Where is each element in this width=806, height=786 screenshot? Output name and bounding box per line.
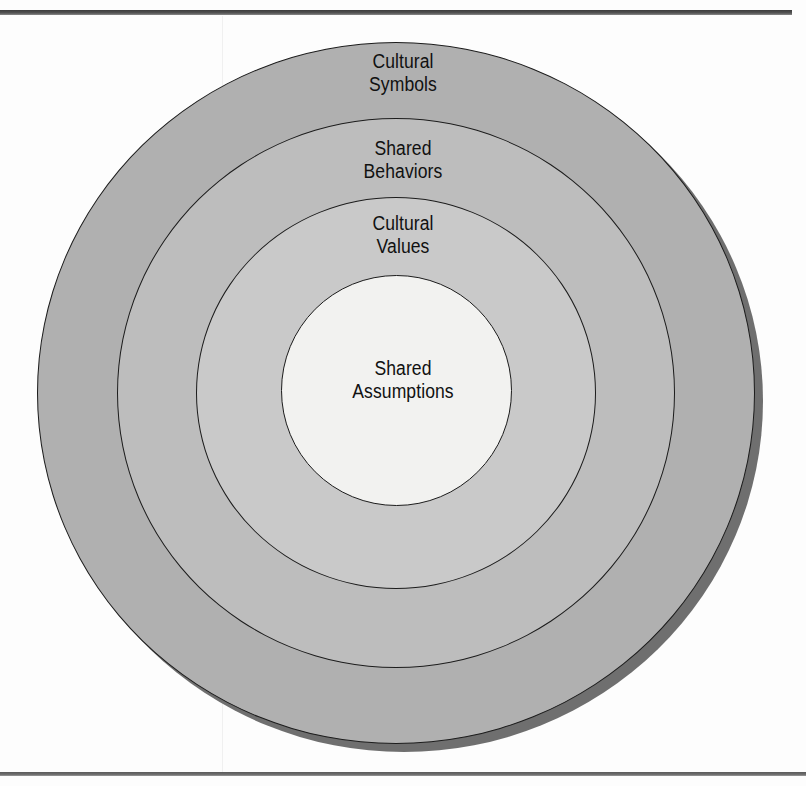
circle-shared-assumptions[interactable] xyxy=(281,275,512,506)
concentric-circles-diagram: Cultural Symbols Shared Behaviors Cultur… xyxy=(0,0,806,786)
diagram-page: Cultural Symbols Shared Behaviors Cultur… xyxy=(0,0,806,786)
bottom-horizontal-rule xyxy=(0,772,806,776)
